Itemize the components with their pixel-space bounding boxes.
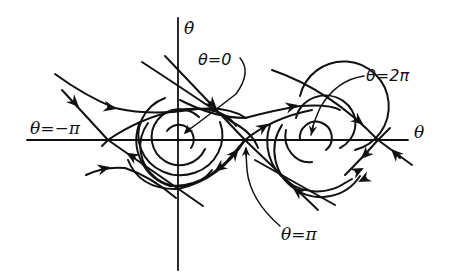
saddle-three-pi-separatrices bbox=[272, 70, 412, 175]
phase-portrait-canvas bbox=[0, 0, 460, 280]
theta-axis-label: θ bbox=[414, 124, 424, 141]
label-theta-zero: θ=0 bbox=[198, 52, 231, 68]
theta-dot-axis-label: θ̇ bbox=[184, 20, 194, 37]
spiral-theta-zero bbox=[128, 98, 245, 189]
label-theta-minus-pi: θ=−π bbox=[30, 120, 80, 137]
phase-portrait-figure: θ̇ θ θ=0 θ=2π θ=−π θ=π bbox=[0, 0, 460, 280]
label-theta-two-pi: θ=2π bbox=[366, 68, 409, 84]
label-theta-pi: θ=π bbox=[281, 226, 317, 243]
leader-theta-zero bbox=[186, 58, 245, 132]
